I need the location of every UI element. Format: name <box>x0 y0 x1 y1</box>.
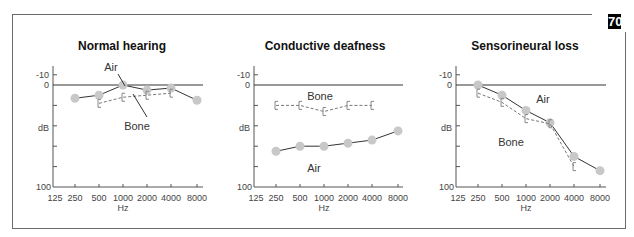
air-circle-marker <box>474 81 483 90</box>
y-axis-label: dB <box>38 123 49 133</box>
air-label: Air <box>307 162 321 174</box>
bone-leader-line <box>133 94 147 117</box>
x-tick-label: 1000 <box>113 193 133 203</box>
air-circle-marker <box>296 142 305 151</box>
y-tick-label: 100 <box>237 182 252 192</box>
air-circle-marker <box>522 106 531 115</box>
bone-label: Bone <box>124 120 150 132</box>
x-axis-label: Hz <box>118 203 129 213</box>
x-tick-label: 250 <box>67 193 82 203</box>
bone-conduction-line <box>478 93 574 166</box>
x-tick-label: 250 <box>268 193 283 203</box>
x-tick-label: 2000 <box>137 193 157 203</box>
y-tick-label: 0 <box>44 80 49 90</box>
x-tick-label: 1000 <box>314 193 334 203</box>
bone-conduction-line <box>99 93 171 103</box>
air-label: Air <box>104 61 118 73</box>
air-circle-marker <box>193 96 202 105</box>
x-tick-label: 500 <box>292 193 307 203</box>
chart-title: Normal hearing <box>78 39 166 53</box>
x-tick-label: 8000 <box>590 193 610 203</box>
air-circle-marker <box>596 166 605 175</box>
x-tick-label: 4000 <box>362 193 382 203</box>
y-tick-label: 0 <box>447 80 452 90</box>
bone-bracket-marker <box>371 101 374 109</box>
x-tick-label: 1000 <box>516 193 536 203</box>
x-axis-label: Hz <box>521 203 532 213</box>
x-tick-label: 250 <box>470 193 485 203</box>
air-circle-marker <box>394 126 403 135</box>
x-tick-label: 2000 <box>338 193 358 203</box>
bone-label: Bone <box>498 136 524 148</box>
x-tick-label: 2000 <box>540 193 560 203</box>
x-axis-label: Hz <box>319 203 330 213</box>
x-tick-label: 125 <box>47 193 62 203</box>
bone-conduction-line <box>276 105 372 111</box>
y-axis-label: dB <box>239 123 250 133</box>
air-conduction-line <box>276 131 398 151</box>
bone-label: Bone <box>307 90 333 102</box>
chart-title: Sensorineural loss <box>471 39 579 53</box>
x-tick-label: 4000 <box>161 193 181 203</box>
chart-title: Conductive deafness <box>265 39 386 53</box>
audiogram-figure: Normal hearing-100dB10012525050010002000… <box>0 0 634 237</box>
y-tick-label: 100 <box>439 182 454 192</box>
x-tick-label: 8000 <box>187 193 207 203</box>
air-circle-marker <box>143 86 152 95</box>
y-tick-label: -10 <box>237 70 250 80</box>
air-circle-marker <box>344 139 353 148</box>
y-tick-label: 0 <box>245 80 250 90</box>
air-circle-marker <box>570 152 579 161</box>
x-tick-label: 500 <box>494 193 509 203</box>
air-circle-marker <box>320 142 329 151</box>
air-circle-marker <box>71 94 80 103</box>
air-circle-marker <box>95 91 104 100</box>
y-tick-label: -10 <box>439 70 452 80</box>
air-label: Air <box>536 93 550 105</box>
air-circle-marker <box>368 136 377 145</box>
x-tick-label: 125 <box>248 193 263 203</box>
y-tick-label: 100 <box>36 182 51 192</box>
y-tick-label: -10 <box>36 70 49 80</box>
air-circle-marker <box>272 147 281 156</box>
x-tick-label: 125 <box>450 193 465 203</box>
air-circle-marker <box>167 84 176 93</box>
bone-bracket-marker <box>573 163 576 171</box>
y-axis-label: dB <box>441 123 452 133</box>
x-tick-label: 4000 <box>564 193 584 203</box>
x-tick-label: 8000 <box>388 193 408 203</box>
x-tick-label: 500 <box>91 193 106 203</box>
